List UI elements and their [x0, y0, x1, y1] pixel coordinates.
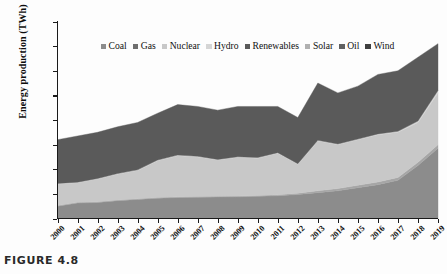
legend-item-coal[interactable]: Coal: [101, 41, 127, 51]
legend-swatch-icon: [365, 44, 371, 50]
legend-item-label: Renewables: [253, 41, 299, 51]
x-tick-mark: [358, 219, 359, 223]
x-tick-mark: [118, 219, 119, 223]
legend-item-solar[interactable]: Solar: [305, 41, 333, 51]
legend-item-label: Gas: [141, 41, 156, 51]
x-tick-mark: [58, 219, 59, 223]
x-tick-mark: [318, 219, 319, 223]
x-tick-mark: [378, 219, 379, 223]
x-tick-mark: [278, 219, 279, 223]
x-tick-mark: [418, 219, 419, 223]
legend-swatch-icon: [245, 44, 251, 50]
y-tick-mark: [53, 219, 57, 220]
legend-item-label: Nuclear: [170, 41, 200, 51]
chart-plot-area: 160140120100806040200 200020012002200320…: [0, 0, 447, 232]
x-tick-mark: [398, 219, 399, 223]
y-tick-mark: [53, 22, 57, 23]
legend-item-nuclear[interactable]: Nuclear: [162, 41, 200, 51]
figure-caption-text: FIGURE 4.8: [4, 254, 79, 267]
x-tick-mark: [218, 219, 219, 223]
figure-caption: FIGURE 4.8: [4, 250, 79, 268]
x-tick-mark: [258, 219, 259, 223]
legend-item-oil[interactable]: Oil: [339, 41, 359, 51]
y-tick-mark: [53, 71, 57, 72]
x-tick-mark: [178, 219, 179, 223]
legend-swatch-icon: [101, 44, 107, 50]
x-tick-mark: [438, 219, 439, 223]
legend-swatch-icon: [206, 44, 212, 50]
legend-swatch-icon: [162, 44, 168, 50]
legend-item-label: Wind: [373, 41, 394, 51]
x-axis-line: [57, 218, 438, 219]
x-tick-mark: [158, 219, 159, 223]
legend-item-label: Coal: [109, 41, 127, 51]
figure-container: 160140120100806040200 200020012002200320…: [0, 0, 447, 274]
legend-item-label: Solar: [313, 41, 333, 51]
y-tick-mark: [53, 145, 57, 146]
y-tick-mark: [53, 169, 57, 170]
legend-item-label: Oil: [347, 41, 359, 51]
legend-swatch-icon: [339, 44, 345, 50]
x-tick-mark: [198, 219, 199, 223]
x-tick-mark: [78, 219, 79, 223]
y-axis-title: Energy production (TWh): [17, 0, 28, 147]
x-tick-mark: [338, 219, 339, 223]
stacked-area-series-group: [0, 0, 447, 232]
legend-item-wind[interactable]: Wind: [365, 41, 394, 51]
legend-swatch-icon: [305, 44, 311, 50]
x-tick-mark: [238, 219, 239, 223]
legend-item-gas[interactable]: Gas: [133, 41, 156, 51]
y-tick-mark: [53, 95, 57, 96]
legend-item-hydro[interactable]: Hydro: [206, 41, 239, 51]
y-tick-mark: [53, 120, 57, 121]
y-tick-mark: [53, 194, 57, 195]
legend-item-renewables[interactable]: Renewables: [245, 41, 299, 51]
chart-legend: CoalGasNuclearHydroRenewablesSolarOilWin…: [57, 41, 438, 51]
legend-item-label: Hydro: [214, 41, 239, 51]
x-tick-mark: [138, 219, 139, 223]
x-tick-mark: [298, 219, 299, 223]
x-tick-mark: [98, 219, 99, 223]
legend-swatch-icon: [133, 44, 139, 50]
